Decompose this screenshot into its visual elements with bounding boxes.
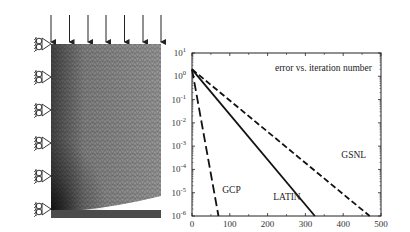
y-tick-label: 10-4 <box>172 162 187 174</box>
x-tick-label: 0 <box>190 219 195 229</box>
x-tick-label: 300 <box>299 219 313 229</box>
y-tick-label: 10-3 <box>172 139 186 151</box>
series-label-gcp: GCP <box>222 185 240 195</box>
roller-supports <box>34 37 51 217</box>
chart-title: error vs. iteration number <box>275 63 373 73</box>
y-tick-label: 10-5 <box>172 186 186 198</box>
mesh-panel <box>34 15 161 218</box>
y-tick-label: 10-1 <box>172 93 186 105</box>
y-tick-label: 101 <box>174 46 186 58</box>
series-line-gcp <box>192 69 218 216</box>
y-tick-label: 10-2 <box>172 116 186 128</box>
x-tick-label: 500 <box>374 219 388 229</box>
roller-support-icon <box>34 169 51 184</box>
roller-support-icon <box>34 37 51 52</box>
convergence-chart: 10110010-110-210-310-410-510-6 010020030… <box>172 46 389 229</box>
roller-support-icon <box>34 136 51 151</box>
roller-support-icon <box>34 70 51 85</box>
series-label-latin: LATIN <box>273 192 301 202</box>
load-arrows <box>51 15 161 42</box>
series-label-gsnl: GSNL <box>341 150 366 160</box>
roller-support-icon <box>34 103 51 118</box>
roller-support-icon <box>34 202 51 217</box>
figure: 10110010-110-210-310-410-510-6 010020030… <box>0 0 410 232</box>
x-tick-label: 400 <box>336 219 350 229</box>
x-tick-label: 100 <box>223 219 237 229</box>
y-tick-label: 10-6 <box>172 209 187 221</box>
y-tick-label: 100 <box>174 69 186 81</box>
x-axis: 0100200300400500 <box>190 53 389 229</box>
x-tick-label: 200 <box>261 219 275 229</box>
series-labels: GCPLATINGSNL <box>222 150 366 202</box>
